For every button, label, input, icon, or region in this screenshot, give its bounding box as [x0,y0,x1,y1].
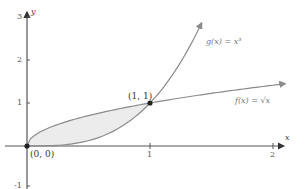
y-tick-2: 2 [17,56,22,64]
y-tick-3: 3 [17,13,22,21]
x-tick-1: 1 [147,151,152,159]
chart-canvas [0,0,307,189]
intersection-point-label: (1, 1) [128,92,152,101]
shaded-area [27,103,150,146]
x-tick-2: 2 [270,151,275,159]
point-origin [24,143,29,148]
g-function-label: g(x) = x³ [206,38,241,46]
point-intersection [147,100,152,105]
y-axis-label: y [31,8,36,16]
x-axis-label: x [285,134,290,142]
origin-point-label: (0, 0) [30,150,54,159]
y-tick-neg1: -1 [14,182,22,189]
y-tick-1: 1 [17,99,22,107]
f-function-label: f(x) = √x [235,97,270,105]
